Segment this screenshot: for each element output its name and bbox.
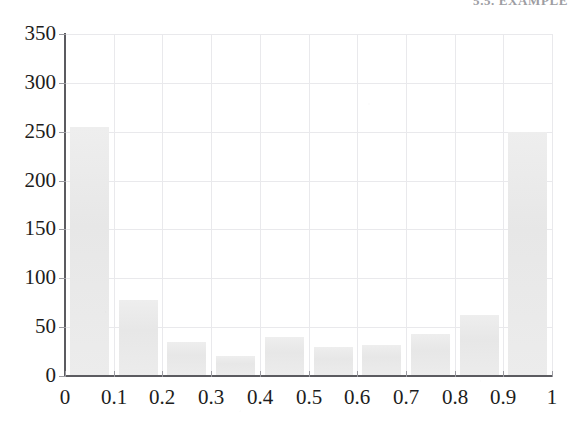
x-tick-mark <box>455 371 456 377</box>
y-tick-mark <box>59 327 66 328</box>
x-tick-mark <box>503 371 504 377</box>
x-axis-tick-labels: 00.10.20.30.40.50.60.70.80.91 <box>0 385 586 415</box>
bar <box>314 347 353 376</box>
gridline-vertical <box>406 34 407 376</box>
bar <box>119 300 158 376</box>
gridline-horizontal <box>65 181 552 182</box>
y-tick-mark <box>59 278 66 279</box>
x-tick-mark <box>211 371 212 377</box>
y-tick-mark <box>59 132 66 133</box>
bar <box>167 342 206 376</box>
bar <box>70 127 109 376</box>
y-tick-label: 0 <box>8 365 56 386</box>
gridline-vertical <box>309 34 310 376</box>
bar <box>508 132 547 376</box>
bar <box>460 315 499 376</box>
y-tick-label: 200 <box>8 170 56 191</box>
x-tick-mark <box>114 371 115 377</box>
gridline-horizontal <box>65 229 552 230</box>
gridline-vertical <box>114 34 115 376</box>
bar <box>265 337 304 376</box>
y-tick-label: 150 <box>8 218 56 239</box>
y-tick-mark <box>59 83 66 84</box>
y-tick-mark <box>59 34 66 35</box>
x-tick-mark <box>260 371 261 377</box>
bar <box>216 356 255 376</box>
gridline-horizontal <box>65 83 552 84</box>
bar <box>411 334 450 376</box>
x-tick-mark <box>552 371 553 377</box>
gridline-horizontal <box>65 278 552 279</box>
y-tick-label: 350 <box>8 23 56 44</box>
y-tick-label: 50 <box>8 316 56 337</box>
y-tick-label: 250 <box>8 121 56 142</box>
bar <box>362 345 401 376</box>
x-tick-mark <box>309 371 310 377</box>
x-tick-mark <box>357 371 358 377</box>
gridline-vertical <box>503 34 504 376</box>
y-axis-tick-labels: 050100150200250300350 <box>0 0 56 433</box>
gridline-vertical <box>162 34 163 376</box>
gridline-vertical <box>357 34 358 376</box>
histogram-figure: 050100150200250300350 00.10.20.30.40.50.… <box>0 0 586 433</box>
y-tick-label: 100 <box>8 267 56 288</box>
x-tick-mark <box>406 371 407 377</box>
y-tick-mark <box>59 229 66 230</box>
y-tick-mark <box>59 181 66 182</box>
gridline-vertical <box>552 34 553 376</box>
y-axis-line <box>64 33 66 377</box>
gridline-horizontal <box>65 34 552 35</box>
x-tick-mark <box>162 371 163 377</box>
x-tick-label: 1 <box>522 385 582 409</box>
gridline-vertical <box>260 34 261 376</box>
gridline-vertical <box>211 34 212 376</box>
x-tick-mark <box>65 371 66 377</box>
gridline-vertical <box>455 34 456 376</box>
gridline-horizontal <box>65 132 552 133</box>
plot-area <box>65 34 552 376</box>
y-tick-label: 300 <box>8 72 56 93</box>
